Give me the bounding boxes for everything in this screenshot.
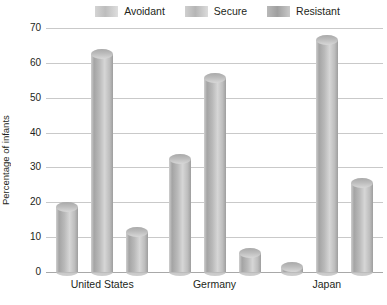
bar-top-ellipse bbox=[316, 35, 338, 45]
y-tick-label: 30 bbox=[30, 162, 41, 172]
bar-top-ellipse bbox=[91, 49, 113, 59]
chart-legend: Avoidant Secure Resistant bbox=[0, 3, 387, 20]
bar-secure-japan bbox=[316, 35, 338, 272]
y-tick-label: 60 bbox=[30, 58, 41, 68]
legend-label-secure: Secure bbox=[214, 6, 247, 17]
y-tick-label: 50 bbox=[30, 93, 41, 103]
legend-item-resistant: Resistant bbox=[267, 6, 340, 17]
x-category-label: Japan bbox=[313, 278, 342, 290]
bar-secure-united-states bbox=[91, 49, 113, 272]
y-axis-title: Percentage of infants bbox=[0, 95, 14, 225]
y-tick-label: 0 bbox=[35, 267, 41, 277]
legend-swatch-avoidant bbox=[95, 6, 118, 17]
bar-body bbox=[91, 54, 113, 272]
legend-swatch-resistant bbox=[267, 6, 290, 17]
y-tick-label: 20 bbox=[30, 197, 41, 207]
bar-body bbox=[169, 159, 191, 273]
bar-resistant-japan bbox=[351, 178, 373, 272]
bar-resistant-germany bbox=[239, 248, 261, 272]
bar-avoidant-japan bbox=[281, 262, 303, 272]
bar-body bbox=[204, 78, 226, 272]
legend-item-secure: Secure bbox=[185, 6, 247, 17]
bar-avoidant-united-states bbox=[56, 202, 78, 272]
bar-top-ellipse bbox=[281, 262, 303, 272]
bar-top-ellipse bbox=[351, 178, 373, 188]
bar-avoidant-germany bbox=[169, 154, 191, 273]
x-category-label: Germany bbox=[193, 278, 236, 290]
bar-body bbox=[56, 207, 78, 272]
bar-body bbox=[351, 183, 373, 272]
bar-body bbox=[126, 232, 148, 272]
y-tick-label: 10 bbox=[30, 232, 41, 242]
legend-label-avoidant: Avoidant bbox=[124, 6, 165, 17]
gridline: 70 bbox=[46, 28, 383, 29]
bar-secure-germany bbox=[204, 73, 226, 272]
bar-body bbox=[316, 40, 338, 272]
legend-item-avoidant: Avoidant bbox=[95, 6, 165, 17]
bar-top-ellipse bbox=[239, 248, 261, 258]
x-category-label: United States bbox=[71, 278, 134, 290]
plot-area: 010203040506070 bbox=[46, 28, 383, 272]
legend-label-resistant: Resistant bbox=[296, 6, 340, 17]
bar-top-ellipse bbox=[169, 154, 191, 164]
bar-chart: Avoidant Secure Resistant Percentage of … bbox=[0, 0, 387, 305]
bar-resistant-united-states bbox=[126, 227, 148, 272]
bar-top-ellipse bbox=[126, 227, 148, 237]
legend-swatch-secure bbox=[185, 6, 208, 17]
y-tick-label: 70 bbox=[30, 23, 41, 33]
y-tick-label: 40 bbox=[30, 128, 41, 138]
